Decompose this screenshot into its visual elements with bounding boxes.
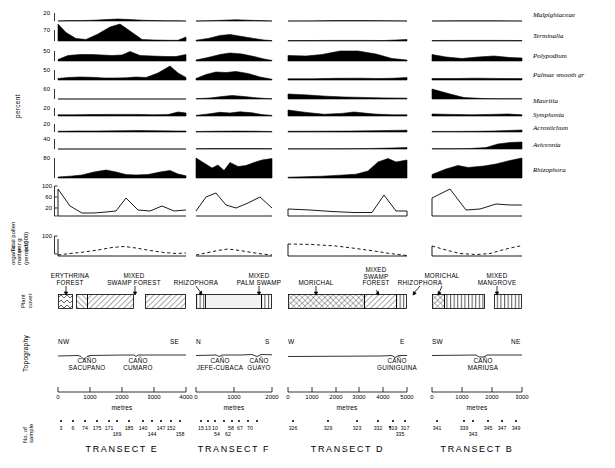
metre-tick: 3000 [512,394,532,400]
metre-tick: 2000 [326,394,346,400]
sample-dot [256,420,258,422]
sample-dot [200,420,202,422]
cano-label-line: SACUPANO [69,364,106,371]
topography-direction-left-D: W [288,338,294,345]
sample-dot [223,420,225,422]
sample-dot [487,420,489,422]
organic-matter-transect-B [432,236,522,260]
sample-dot [377,420,379,422]
sample-number: 343 [463,431,483,437]
taxon-label: Acrostichum [533,124,568,132]
metre-tick: 4000 [373,394,393,400]
sample-number: 62 [218,431,238,437]
metre-tick: 5000 [397,394,417,400]
sample-dot [128,420,130,422]
cano-label-mariusa: CAÑO MARIUSA [456,358,510,371]
transect-title-D: TRANSECT D [288,444,407,454]
metre-tick: 0 [422,394,442,400]
pollen-curves-transect-F [196,10,272,182]
metre-tick: 2000 [112,394,132,400]
taxon-label: Malpighiaceae [533,11,575,19]
sample-dot [160,420,162,422]
pollen-curves-transect-E [58,10,186,182]
metre-tick: 1000 [302,394,322,400]
sample-dot [356,420,358,422]
transect-title-B: TRANSECT B [432,444,522,454]
sample-dot [96,420,98,422]
sample-dot [214,420,216,422]
total-pollen-tick: 100 [30,183,52,189]
topography-direction-left-E: NW [58,338,69,345]
sample-number: 158 [170,431,190,437]
sample-number: 169 [107,431,127,437]
metres-label-D: metres [323,404,371,411]
metres-label-B: metres [453,404,501,411]
percent-tick: 20 [28,10,50,16]
organic-matter-transect-D [288,236,407,260]
taxon-label: Rhizophora [533,166,566,174]
axis-label-organic-matter: organic matter (percent) [10,205,29,265]
total-pollen-tick: 60 [30,194,52,200]
sample-number: 329 [318,425,338,431]
sample-dot [72,420,74,422]
cano-label-guiniguina: CAÑO GUINIGUINA [366,358,428,371]
sample-dot [116,420,118,422]
percent-tick: 20 [28,105,50,111]
sample-dot [207,420,209,422]
sample-dot [327,420,329,422]
taxon-label: Palmae smooth gr [533,71,584,79]
sample-number: 326 [283,425,303,431]
sample-dot [179,420,181,422]
percent-tick: 70 [28,27,50,33]
sample-dot [60,420,62,422]
sample-dot [84,420,86,422]
metre-tick: 0 [278,394,298,400]
organic-matter-transect-E [58,236,186,260]
organic-matter-transect-F [196,236,272,260]
metre-tick: 3000 [144,394,164,400]
topography-direction-left-B: SW [432,338,443,345]
taxon-label: Terminalia [533,32,563,40]
cano-label-line: CUMARO [123,364,153,371]
metre-tick: 1000 [224,394,244,400]
percent-tick: 60 [28,86,50,92]
sample-number: 335 [390,431,410,437]
sample-number: 349 [506,425,526,431]
pollen-curves-transect-D [288,10,407,182]
sample-dot [392,420,394,422]
cano-label-line: GUINIGUINA [377,364,417,371]
sample-dot [238,420,240,422]
sample-dot [515,420,517,422]
sample-number: 70 [240,425,260,431]
sample-dot [404,420,406,422]
cano-label-guayo: CAÑO GUAYO [236,358,282,371]
percent-tick: 40 [28,136,50,142]
taxon-legend: Malpighiaceae Terminalia Polypodium Palm… [533,10,615,182]
total-pollen-transect-B [432,186,522,220]
sample-dot [436,420,438,422]
percent-tick: 50 [28,67,50,73]
metre-tick: 1000 [80,394,100,400]
sample-number: 341 [427,425,447,431]
sample-dot [292,420,294,422]
topography-direction-right-D: E [400,338,405,345]
axis-label-no-of-sample: No. of sample [22,399,35,443]
cano-label-cumaro: CAÑO CUMARO [110,358,166,371]
sample-dot [463,420,465,422]
taxon-label: Mauritia [533,97,558,105]
topography-direction-right-B: NE [511,338,520,345]
sample-dot [151,420,153,422]
total-pollen-transect-D [288,186,407,220]
metres-label-E: metres [98,404,146,411]
metre-tick: 0 [186,394,206,400]
pollen-diagram: percent Total pollen per g (x1000) organ… [0,0,615,468]
total-pollen-transect-E [58,186,186,220]
sample-dot [247,420,249,422]
axis-label-percent: percent [14,94,21,118]
total-pollen-tick: 20 [30,205,52,211]
cover-label-arrows [0,264,615,298]
sample-dot [472,420,474,422]
metre-tick: 0 [48,394,68,400]
sample-dot [501,420,503,422]
metre-tick: 3000 [349,394,369,400]
